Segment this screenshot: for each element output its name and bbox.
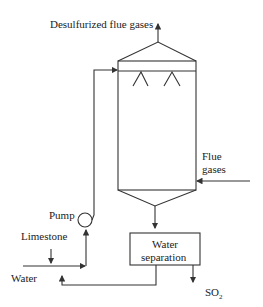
tower-bottom-cone: [118, 190, 196, 206]
scrubber-tower: [118, 61, 196, 190]
diagram-graphics: [0, 0, 263, 307]
separator-label-line1: Water: [152, 238, 178, 250]
pump-label: Pump: [49, 209, 75, 221]
so2-text: SO: [205, 286, 219, 298]
inlet-label-line2: gases: [202, 163, 226, 175]
so2-subscript: 2: [219, 293, 223, 301]
pump-discharge-line: [92, 70, 117, 220]
recycle-line: [62, 265, 156, 285]
outlet-label: Desulfurized flue gases: [50, 18, 153, 30]
water-label: Water: [11, 272, 37, 284]
separator-label-line2: separation: [141, 251, 186, 263]
tower-top-cone: [118, 42, 196, 61]
limestone-label: Limestone: [21, 230, 67, 242]
so2-label: SO2: [205, 286, 223, 303]
desulfurization-diagram: Desulfurized flue gases Flue gases Pump …: [0, 0, 263, 307]
spray-nozzle-icon: [133, 72, 148, 86]
inlet-label-line1: Flue: [202, 150, 222, 162]
pump-icon: [78, 213, 92, 227]
spray-nozzle-icon: [164, 72, 180, 86]
